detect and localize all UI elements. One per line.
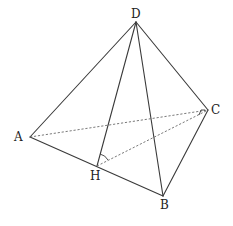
- edge-AC-dashed: [30, 110, 208, 137]
- label-A: A: [13, 130, 23, 144]
- edge-AB: [30, 137, 163, 196]
- edge-DC: [136, 22, 208, 110]
- label-H: H: [90, 169, 100, 183]
- angle-arc-H: [100, 154, 108, 160]
- label-D: D: [131, 7, 141, 21]
- label-B: B: [160, 198, 169, 212]
- edge-DB: [136, 22, 163, 196]
- diagram-svg: D C A H B: [0, 0, 233, 226]
- edge-HC-dashed: [97, 110, 208, 166]
- tetrahedron-diagram: D C A H B: [0, 0, 233, 226]
- label-C: C: [211, 103, 220, 117]
- edge-BC: [163, 110, 208, 196]
